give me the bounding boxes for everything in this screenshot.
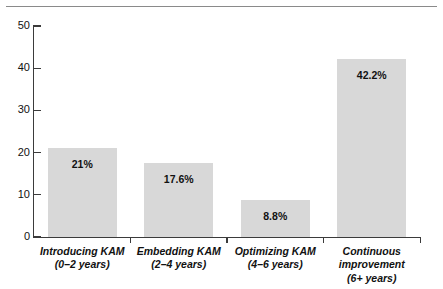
y-axis-tick bbox=[34, 110, 41, 111]
category-label-line: Optimizing KAM bbox=[227, 245, 324, 258]
y-axis-tick-label: 50 bbox=[2, 20, 30, 31]
y-axis-tick bbox=[34, 68, 41, 69]
category-label-line: (0–2 years) bbox=[34, 258, 131, 271]
y-axis-tick-label: 20 bbox=[2, 147, 30, 158]
category-label-line: (6+ years) bbox=[324, 272, 421, 285]
y-axis-tick-label: 30 bbox=[2, 104, 30, 115]
y-axis-tick bbox=[34, 152, 41, 153]
bar-value-label: 21% bbox=[48, 159, 117, 170]
y-axis-tick bbox=[34, 25, 41, 26]
x-axis-tick bbox=[323, 237, 324, 243]
category-label-line: (2–4 years) bbox=[131, 258, 228, 271]
y-axis-tick bbox=[34, 236, 41, 237]
y-axis-tick-labels: 01020304050 bbox=[0, 0, 30, 289]
category-label-line: (4–6 years) bbox=[227, 258, 324, 271]
category-label-line: Embedding KAM bbox=[131, 245, 228, 258]
bar-value-label: 8.8% bbox=[241, 211, 310, 222]
x-axis-tick bbox=[226, 237, 227, 243]
bar-value-label: 17.6% bbox=[144, 174, 213, 185]
x-axis-tick-end bbox=[420, 237, 421, 243]
y-axis-line bbox=[33, 25, 34, 238]
category-label-line: improvement bbox=[324, 258, 421, 271]
category-label: Continuousimprovement(6+ years) bbox=[324, 245, 421, 285]
y-axis-tick bbox=[34, 194, 41, 195]
category-label-line: Continuous bbox=[324, 245, 421, 258]
bar-value-label: 42.2% bbox=[337, 70, 406, 81]
category-label: Optimizing KAM(4–6 years) bbox=[227, 245, 324, 272]
category-label: Introducing KAM(0–2 years) bbox=[34, 245, 131, 272]
top-divider-rule bbox=[6, 6, 437, 7]
bar bbox=[337, 59, 406, 237]
y-axis-tick-label: 0 bbox=[2, 231, 30, 242]
x-axis-tick bbox=[130, 237, 131, 243]
bar-chart-figure: 01020304050 21%17.6%8.8%42.2% Introducin… bbox=[0, 0, 443, 289]
category-label-line: Introducing KAM bbox=[34, 245, 131, 258]
y-axis-tick-label: 10 bbox=[2, 189, 30, 200]
category-label: Embedding KAM(2–4 years) bbox=[131, 245, 228, 272]
y-axis-tick-label: 40 bbox=[2, 62, 30, 73]
